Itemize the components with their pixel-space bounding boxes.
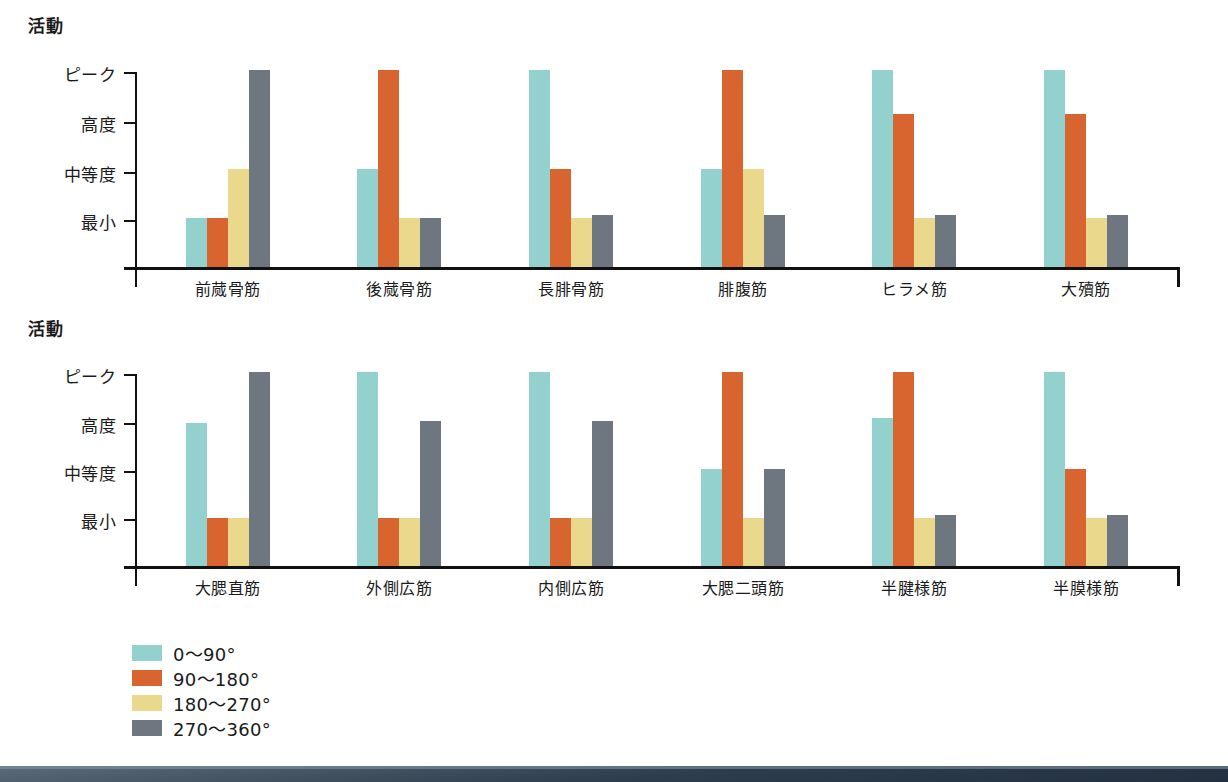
x-tick-label: 前蒇骨筋: [195, 276, 261, 300]
bar: [914, 218, 935, 267]
y-tick-label-moderate: 中等度: [64, 161, 117, 186]
legend-label: 0～90°: [173, 640, 236, 666]
y-axis-line-bottom: [135, 374, 137, 586]
x-tick-label: 大腮二頭筋: [702, 575, 785, 599]
y-tick-label-minimal-2: 最小: [81, 508, 116, 533]
bar: [743, 169, 764, 268]
y-tick-minimal-bottom: [124, 519, 137, 521]
bar: [420, 421, 441, 567]
bar: [764, 215, 785, 267]
bar: [1065, 469, 1086, 566]
bar: [207, 518, 228, 567]
bar: [378, 518, 399, 567]
bar-cluster: [529, 372, 613, 566]
y-tick-peak-bottom: [124, 374, 137, 376]
x-tick-label: 腓腹筋: [718, 276, 768, 300]
bar: [399, 218, 420, 267]
y-tick-label-high-2: 高度: [81, 412, 116, 437]
figure-page: 活動 ピーク 高度 中等度 最小 前蒇骨筋後蒇骨筋長腓骨筋腓腹筋ヒラメ筋大殰筋 …: [0, 0, 1228, 782]
x-tick-label: 半膜様筋: [1053, 575, 1119, 599]
bar-cluster: [1044, 372, 1128, 566]
bar-cluster: [186, 372, 270, 566]
bar: [764, 469, 785, 566]
legend-item: 270～360°: [132, 715, 271, 740]
legend-label: 270～360°: [173, 715, 271, 741]
chart-panel-bottom: 活動 ピーク 高度 中等度 最小 大腮直筋外側広筋内側広筋大腮二頭筋半腱様筋半膜…: [0, 305, 1228, 605]
bar: [1086, 218, 1107, 267]
bar: [571, 218, 592, 267]
bar-cluster: [1044, 70, 1128, 267]
legend-swatch: [132, 695, 162, 711]
bar-cluster: [357, 70, 441, 267]
bar: [743, 518, 764, 567]
bar-groups-top: 前蒇骨筋後蒇骨筋長腓骨筋腓腹筋ヒラメ筋大殰筋: [142, 70, 1172, 267]
bar: [722, 372, 743, 566]
bar: [249, 372, 270, 566]
bar: [935, 215, 956, 267]
y-axis-line-top: [135, 72, 137, 287]
y-tick-peak-top: [124, 72, 137, 74]
x-tick-label: 長腓骨筋: [538, 276, 604, 300]
bar: [228, 518, 249, 567]
bar: [1044, 70, 1065, 267]
bar-group: 外側広筋: [314, 372, 486, 566]
bar: [1086, 518, 1107, 567]
bar: [207, 218, 228, 267]
y-tick-minimal-top: [124, 220, 137, 222]
bar-cluster: [701, 70, 785, 267]
bar: [357, 372, 378, 566]
bar: [914, 518, 935, 567]
bar-cluster: [872, 70, 956, 267]
bar: [550, 169, 571, 268]
bar: [249, 70, 270, 267]
bar-cluster: [357, 372, 441, 566]
bar: [935, 515, 956, 566]
bar: [357, 169, 378, 268]
bar-group: 長腓骨筋: [485, 70, 657, 267]
y-axis-title-top: 活動: [28, 12, 63, 37]
legend-swatch: [132, 670, 162, 686]
chart-panel-top: 活動 ピーク 高度 中等度 最小 前蒇骨筋後蒇骨筋長腓骨筋腓腹筋ヒラメ筋大殰筋: [0, 0, 1228, 305]
bar-group: 半腱様筋: [829, 372, 1001, 566]
bar-group: 内側広筋: [485, 372, 657, 566]
y-tick-label-high: 高度: [81, 111, 116, 136]
y-tick-label-moderate-2: 中等度: [64, 460, 117, 485]
y-tick-moderate-top: [124, 172, 137, 174]
legend-swatch: [132, 645, 162, 661]
bar: [722, 70, 743, 267]
x-axis-line-top: [124, 267, 1180, 270]
bar-group: 大腮直筋: [142, 372, 314, 566]
x-tick-label: 外側広筋: [366, 575, 432, 599]
bar-group: 大殰筋: [1000, 70, 1172, 267]
y-tick-high-top: [124, 122, 137, 124]
bar: [592, 215, 613, 267]
bar: [228, 169, 249, 268]
bar-group: 前蒇骨筋: [142, 70, 314, 267]
bar-groups-bottom: 大腮直筋外側広筋内側広筋大腮二頭筋半腱様筋半膜様筋: [142, 372, 1172, 566]
legend-item: 180～270°: [132, 690, 271, 715]
bar: [893, 372, 914, 566]
bar-cluster: [186, 70, 270, 267]
y-tick-high-bottom: [124, 423, 137, 425]
y-tick-label-peak: ピーク: [64, 61, 117, 86]
x-tick-label: 内側広筋: [538, 575, 604, 599]
x-tick-label: 半腱様筋: [881, 575, 947, 599]
bar: [186, 218, 207, 267]
legend: 0～90°90～180°180～270°270～360°: [132, 640, 271, 740]
bar: [1107, 515, 1128, 566]
plot-area-top: 前蒇骨筋後蒇骨筋長腓骨筋腓腹筋ヒラメ筋大殰筋: [124, 0, 1204, 305]
bar-group: 大腮二頭筋: [657, 372, 829, 566]
x-tick-label: 大腮直筋: [195, 575, 261, 599]
bar-cluster: [529, 70, 613, 267]
bar: [701, 169, 722, 268]
bar: [550, 518, 571, 567]
bar-group: 半膜様筋: [1000, 372, 1172, 566]
bar-cluster: [701, 372, 785, 566]
bar: [893, 114, 914, 267]
legend-label: 90～180°: [173, 665, 259, 691]
plot-area-bottom: 大腮直筋外側広筋内側広筋大腮二頭筋半腱様筋半膜様筋: [124, 305, 1204, 605]
bar: [378, 70, 399, 267]
bar: [399, 518, 420, 567]
bar: [1044, 372, 1065, 566]
bar: [872, 70, 893, 267]
